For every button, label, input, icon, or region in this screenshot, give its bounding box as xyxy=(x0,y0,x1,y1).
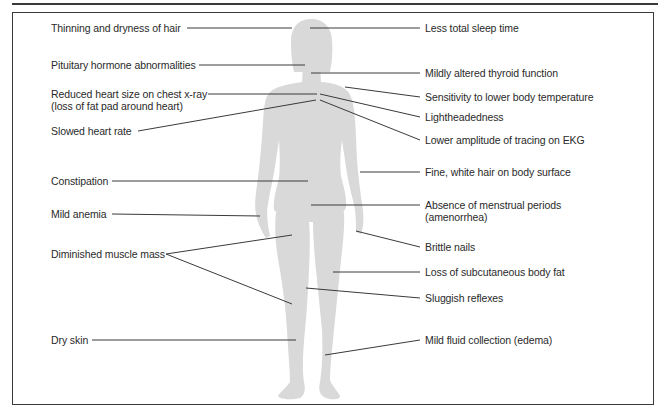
label-menstrual: Absence of menstrual periods (amenorrhea… xyxy=(425,199,561,223)
label-reflexes: Sluggish reflexes xyxy=(425,292,503,304)
label-heart-size: Reduced heart size on chest x-ray (loss … xyxy=(51,88,207,112)
label-muscle: Diminished muscle mass xyxy=(51,248,165,260)
label-pituitary: Pituitary hormone abnormalities xyxy=(51,59,196,71)
label-hair: Thinning and dryness of hair xyxy=(51,22,181,34)
label-lightheaded: Lightheadedness xyxy=(425,111,504,123)
label-anemia: Mild anemia xyxy=(51,208,107,220)
label-temperature: Sensitivity to lower body temperature xyxy=(425,91,593,103)
label-thyroid: Mildly altered thyroid function xyxy=(425,67,558,79)
label-heart-rate: Slowed heart rate xyxy=(51,125,132,137)
label-body-fat: Loss of subcutaneous body fat xyxy=(425,266,565,278)
leader-muscle-thigh xyxy=(166,235,292,254)
label-nails: Brittle nails xyxy=(425,241,475,253)
label-edema: Mild fluid collection (edema) xyxy=(425,334,552,346)
label-sleep: Less total sleep time xyxy=(425,22,519,34)
leader-lines xyxy=(92,28,420,355)
leader-edema xyxy=(325,340,420,355)
leader-muscle-calf xyxy=(166,254,292,304)
leader-anemia xyxy=(112,214,260,216)
leader-nails xyxy=(356,231,420,247)
label-constipation: Constipation xyxy=(51,175,108,187)
leader-temperature xyxy=(345,87,420,97)
label-dry-skin: Dry skin xyxy=(51,334,88,346)
body-silhouette-icon xyxy=(255,19,363,399)
label-ekg: Lower amplitude of tracing on EKG xyxy=(425,134,585,146)
label-body-hair: Fine, white hair on body surface xyxy=(425,166,571,178)
